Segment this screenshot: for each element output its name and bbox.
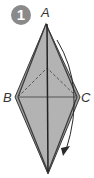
step-number-badge: 1 xyxy=(11,5,31,25)
center-crease xyxy=(47,24,48,172)
arrow-head-icon xyxy=(61,146,70,156)
vertex-label-a: A xyxy=(41,6,50,19)
vertex-label-b: B xyxy=(3,91,12,104)
kite-fold-drawing xyxy=(0,0,94,178)
origami-diagram: 1 A B C xyxy=(0,0,94,178)
vertex-label-c: C xyxy=(81,91,90,104)
